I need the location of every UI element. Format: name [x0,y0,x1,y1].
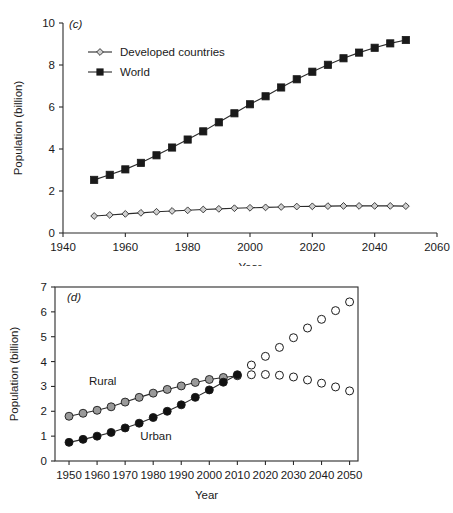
marker-developed [340,203,347,210]
x-tick-label-d: 1970 [112,469,138,481]
legend-marker-developed [97,49,104,56]
marker-rural-historical [149,389,157,397]
marker-world [106,171,113,178]
marker-rural-projected [275,371,283,379]
marker-world [262,93,269,100]
legend-label-developed: Developed countries [120,46,225,58]
marker-urban-historical [121,424,129,432]
marker-developed [325,203,332,210]
marker-urban-historical [233,371,241,379]
marker-developed [371,203,378,210]
x-tick-label-d: 1990 [168,469,194,481]
marker-developed [278,204,285,211]
marker-urban-historical [205,386,213,394]
y-tick-label-d: 4 [41,356,48,368]
marker-world [122,166,129,173]
marker-world [137,159,144,166]
x-tick-label-c: 2040 [362,241,388,253]
marker-world [91,176,98,183]
chart-panel-c: 02468101940196019802000202020402060YearP… [0,0,453,266]
marker-developed [122,210,129,217]
x-tick-label-d: 1950 [56,469,82,481]
marker-rural-historical [163,385,171,393]
marker-urban-historical [135,419,143,427]
x-tick-label-d: 2050 [337,469,363,481]
y-tick-label-d: 1 [41,430,47,442]
marker-rural-projected [247,371,255,379]
marker-developed [402,203,409,210]
marker-developed [309,203,316,210]
panel-label-c: (c) [69,18,83,30]
y-tick-label-d: 3 [41,380,47,392]
chart-d-svg: 0123456719501960197019801990200020102020… [0,266,453,513]
x-axis-title-d: Year [195,489,218,501]
y-axis-title-c: Population (billion) [12,81,24,176]
marker-urban-historical [177,401,185,409]
legend-label-world: World [120,66,150,78]
y-tick-label-c: 6 [49,101,55,113]
marker-developed [387,203,394,210]
marker-world [246,101,253,108]
marker-world [200,128,207,135]
marker-world [387,40,394,47]
marker-urban-historical [93,432,101,440]
marker-developed [169,208,176,215]
marker-developed [138,209,145,216]
marker-world [231,110,238,117]
marker-urban-historical [191,393,199,401]
x-tick-label-d: 1960 [84,469,110,481]
x-tick-label-c: 2000 [237,241,263,253]
marker-rural-projected [332,383,340,391]
marker-developed [184,207,191,214]
marker-rural-historical [107,403,115,411]
marker-world [278,84,285,91]
marker-rural-historical [121,398,129,406]
chart-c-svg: 02468101940196019802000202020402060YearP… [0,0,453,266]
marker-developed [106,212,113,219]
marker-urban-historical [149,414,157,422]
marker-rural-historical [65,412,73,420]
x-tick-label-c: 2020 [300,241,326,253]
x-tick-label-c: 1960 [113,241,139,253]
y-tick-label-c: 0 [49,227,55,239]
x-tick-label-c: 2060 [424,241,450,253]
x-tick-label-d: 1980 [140,469,166,481]
marker-urban-historical [163,407,171,415]
x-tick-label-d: 2000 [197,469,223,481]
marker-rural-historical [191,378,199,386]
y-tick-label-c: 4 [49,143,56,155]
marker-world [153,152,160,159]
marker-urban-projected [346,298,354,306]
marker-urban-historical [65,438,73,446]
marker-rural-projected [289,373,297,381]
marker-rural-historical [135,393,143,401]
marker-world [371,44,378,51]
y-axis-title-d: Population (billion) [8,327,20,422]
marker-urban-projected [318,315,326,323]
marker-rural-projected [304,376,312,384]
y-tick-label-d: 5 [41,331,47,343]
x-tick-label-c: 1980 [175,241,201,253]
marker-world [215,119,222,126]
marker-rural-historical [79,409,87,417]
marker-world [402,36,409,43]
marker-world [168,144,175,151]
marker-urban-projected [261,352,269,360]
annotation-urban: Urban [140,430,171,442]
marker-developed [215,205,222,212]
x-tick-label-d: 2020 [253,469,279,481]
marker-rural-historical [93,406,101,414]
marker-developed [247,204,254,211]
marker-urban-historical [79,435,87,443]
marker-urban-projected [304,324,312,332]
x-tick-label-d: 2030 [281,469,307,481]
marker-world [355,49,362,56]
marker-world [340,55,347,62]
marker-world [184,136,191,143]
marker-urban-projected [332,307,340,315]
marker-urban-projected [247,361,255,369]
marker-rural-projected [261,370,269,378]
y-tick-label-c: 2 [49,185,55,197]
marker-rural-projected [346,387,354,395]
y-tick-label-d: 6 [41,306,47,318]
